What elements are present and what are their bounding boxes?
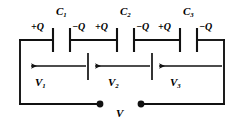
charge-label-c3-positive: +Q bbox=[158, 22, 171, 32]
charge-label-c3-negative: −Q bbox=[199, 22, 212, 32]
capacitor-label-c2: C2 bbox=[120, 6, 131, 17]
circuit-wires bbox=[20, 40, 224, 104]
voltage-label-v2: V2 bbox=[108, 77, 119, 88]
capacitor-label-c1-subscript: 1 bbox=[63, 11, 66, 18]
charge-label-c2-negative: −Q bbox=[136, 22, 149, 32]
capacitor-label-c1: C1 bbox=[56, 6, 67, 17]
source-voltage-label: V bbox=[116, 108, 123, 119]
capacitor-label-c3-subscript: 3 bbox=[190, 11, 193, 18]
voltage-label-v3: V3 bbox=[170, 77, 181, 88]
capacitor-label-c3: C3 bbox=[183, 6, 194, 17]
terminal-left-node bbox=[97, 101, 104, 108]
voltage-label-v1-subscript: 1 bbox=[42, 82, 45, 89]
terminal-right-node bbox=[138, 101, 145, 108]
voltage-label-v3-subscript: 3 bbox=[177, 82, 180, 89]
voltage-label-v1: V1 bbox=[35, 77, 46, 88]
voltage-label-v2-subscript: 2 bbox=[115, 82, 118, 89]
capacitor-circuit-diagram: C1 C2 C3 +Q −Q +Q −Q +Q −Q V1 V2 V3 V bbox=[0, 0, 244, 122]
charge-label-c1-negative: −Q bbox=[72, 22, 85, 32]
capacitor-label-c2-subscript: 2 bbox=[127, 11, 130, 18]
charge-label-c2-positive: +Q bbox=[95, 22, 108, 32]
charge-label-c1-positive: +Q bbox=[31, 22, 44, 32]
circuit-schematic-svg bbox=[0, 0, 244, 122]
